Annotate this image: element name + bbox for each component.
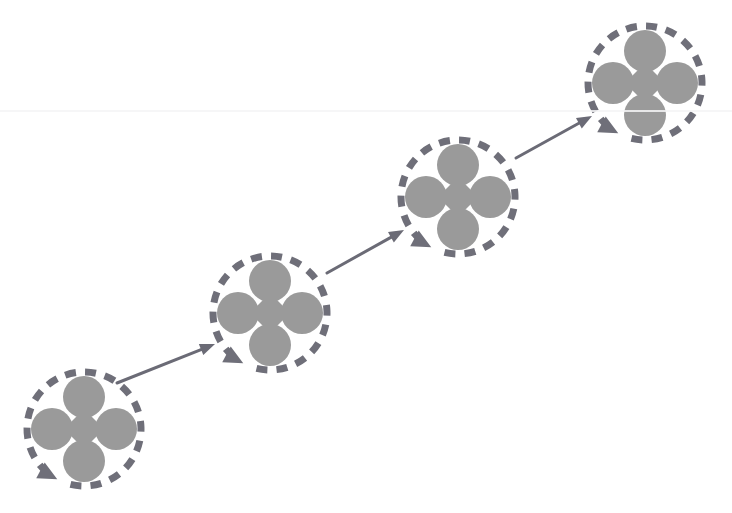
diagram-canvas: Stage 1 to stage 2Stage 2 to stage 3Stag… (0, 0, 732, 513)
center-diamond (64, 409, 104, 449)
node-2[interactable]: Cycle stage 2 (213, 256, 327, 370)
connectors-layer: Stage 1 to stage 2Stage 2 to stage 3Stag… (117, 116, 592, 383)
connector-3-4[interactable]: Stage 3 to stage 4 (516, 116, 592, 158)
node-4[interactable]: Cycle stage 4 (588, 26, 702, 140)
node-1[interactable]: Cycle stage 1 (27, 372, 141, 486)
nodes-layer: Cycle stage 1Cycle stage 2Cycle stage 3C… (27, 26, 702, 486)
center-diamond (625, 63, 665, 103)
connector-1-2[interactable]: Stage 1 to stage 2 (117, 344, 215, 383)
cycle-arrowhead-icon (597, 116, 618, 133)
connector-line (327, 236, 393, 273)
node-3[interactable]: Cycle stage 3 (401, 140, 515, 254)
connector-arrowhead-icon (199, 344, 215, 355)
connector-arrowhead-icon (388, 230, 404, 243)
connector-line (117, 349, 203, 383)
center-diamond (250, 293, 290, 333)
cycle-arrowhead-icon (36, 462, 57, 479)
cycle-arrowhead-icon (222, 346, 243, 363)
connector-arrowhead-icon (576, 116, 592, 129)
cycle-arrowhead-icon (410, 230, 431, 247)
diagram-svg: Stage 1 to stage 2Stage 2 to stage 3Stag… (0, 0, 732, 513)
connector-2-3[interactable]: Stage 2 to stage 3 (327, 230, 404, 273)
center-diamond (438, 177, 478, 217)
connector-line (516, 122, 581, 158)
